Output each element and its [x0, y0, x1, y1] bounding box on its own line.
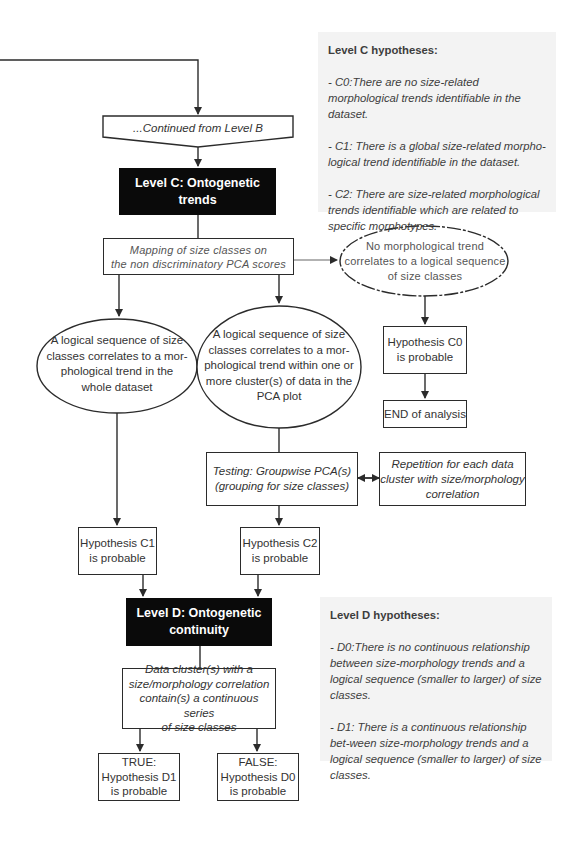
false-hypothesis-d0-box: FALSE: Hypothesis D0 is probable: [217, 753, 299, 801]
hypothesis-c0-text: - C0:There are no size-related morpholog…: [328, 74, 546, 122]
hypothesis-c0-box: Hypothesis C0 is probable: [383, 326, 467, 374]
no-trend-text: No morphological trend correlates to a l…: [342, 230, 508, 292]
hypothesis-c2-box: Hypothesis C2 is probable: [240, 527, 320, 575]
panel-title: Level D hypotheses:: [330, 607, 542, 623]
hypothesis-d0-text: - D0:There is no continuous relationship…: [330, 639, 542, 703]
hypothesis-c1-text: - C1: There is a global size-related mor…: [328, 138, 546, 170]
level-d-header: Level D: Ontogenetic continuity: [126, 598, 272, 646]
testing-box: Testing: Groupwise PCA(s) (grouping for …: [206, 452, 358, 506]
level-c-header: Level C: Ontogenetic trends: [119, 168, 276, 215]
level-c-hypotheses-panel: Level C hypotheses: - C0:There are no si…: [318, 32, 556, 212]
end-of-analysis-box: END of analysis: [383, 400, 467, 428]
true-hypothesis-d1-box: TRUE: Hypothesis D1 is probable: [98, 753, 180, 801]
hypothesis-c2-text: - C2: There are size-related morphologic…: [328, 186, 546, 234]
hypothesis-d1-text: - D1: There is a continuous relationship…: [330, 719, 542, 783]
panel-title: Level C hypotheses:: [328, 42, 546, 58]
cluster-continuity-question-box: Data cluster(s) with a size/morphology c…: [122, 668, 276, 729]
global-trend-text: A logical sequence of size classes corre…: [37, 329, 197, 399]
repetition-box: Repetition for each data cluster with si…: [379, 452, 526, 506]
hypothesis-c1-box: Hypothesis C1 is probable: [78, 527, 157, 575]
mapping-box: Mapping of size classes on the non discr…: [103, 238, 294, 275]
continued-from-level-b: ...Continued from Level B: [103, 116, 293, 140]
cluster-trend-text: A logical sequence of size classes corre…: [197, 323, 361, 409]
connector-from-level-b: [0, 60, 198, 114]
level-d-hypotheses-panel: Level D hypotheses: - D0:There is no con…: [320, 597, 552, 761]
